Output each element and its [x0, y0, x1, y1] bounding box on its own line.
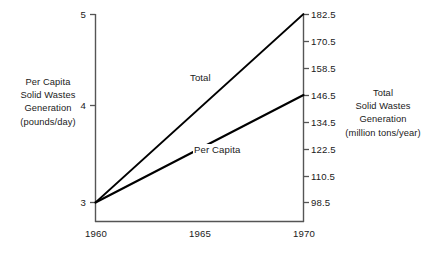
y-right-tick-label-134-5: 134.5	[311, 117, 336, 128]
y-right-tick-label-158-5: 158.5	[311, 63, 336, 74]
chart-container: Per Capita Solid Wastes Generation (poun…	[0, 0, 432, 253]
y-right-tick-label-170-5: 170.5	[311, 36, 336, 47]
x-tick-label-1970: 1970	[284, 228, 324, 239]
x-tick-label-1965: 1965	[180, 228, 220, 239]
y-right-tick-label-146-5: 146.5	[311, 90, 336, 101]
plot-area	[0, 0, 432, 253]
y-right-tick-label-110-5: 110.5	[311, 171, 335, 182]
y-left-tick-label-4: 4	[64, 100, 86, 111]
y-left-tick-label-5: 5	[64, 9, 86, 20]
y-right-tick-label-98-5: 98.5	[311, 197, 330, 208]
series-annotation-per-capita: Per Capita	[193, 144, 241, 155]
series-annotation-total: Total	[189, 72, 212, 83]
y-right-tick-label-122-5: 122.5	[311, 144, 336, 155]
y-left-tick-label-3: 3	[64, 197, 86, 208]
x-tick-label-1960: 1960	[76, 228, 116, 239]
y-right-tick-label-182-5: 182.5	[311, 9, 336, 20]
series-line-total	[96, 14, 304, 203]
